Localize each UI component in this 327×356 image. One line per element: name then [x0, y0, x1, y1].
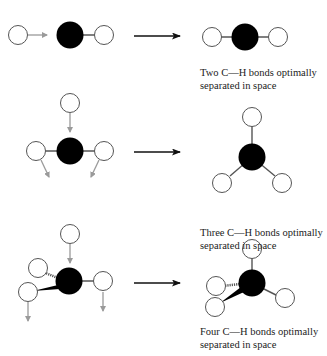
row-three-bonds-after: [213, 108, 292, 193]
carbon-atom: [239, 270, 266, 297]
caption-line: Two C—H bonds optimally: [200, 66, 317, 79]
caption-two-bonds: Two C—H bonds optimally separated in spa…: [200, 66, 317, 92]
row-two-bonds-after: [203, 24, 288, 51]
carbon-atom: [232, 24, 259, 51]
carbon-atom: [57, 22, 84, 49]
hydrogen-atom: [207, 277, 226, 296]
row-four-bonds-before: [19, 225, 113, 322]
hydrogen-atom: [243, 108, 262, 127]
hydrogen-atom: [269, 28, 288, 47]
caption-line: separated in space: [200, 79, 317, 92]
hydrogen-atom: [95, 142, 114, 161]
movement-arrow: [41, 160, 49, 177]
hydrogen-atom: [213, 174, 232, 193]
hydrogen-atom: [29, 259, 48, 278]
caption-line: Four C—H bonds optimally: [200, 325, 318, 338]
caption-three-bonds: Three C—H bonds optimally separated in s…: [200, 226, 323, 252]
carbon-atom: [57, 138, 84, 165]
hydrogen-atom: [95, 26, 114, 45]
row-three-bonds-before: [27, 94, 114, 178]
carbon-atom: [239, 144, 266, 171]
carbon-atom: [56, 268, 83, 295]
hydrogen-atom: [273, 174, 292, 193]
caption-line: separated in space: [200, 338, 318, 351]
hydrogen-atom: [203, 28, 222, 47]
caption-line: separated in space: [200, 239, 323, 252]
hydrogen-atom: [9, 26, 28, 45]
molecular-geometry-diagram: [0, 0, 327, 356]
hydrogen-atom: [276, 289, 295, 308]
hydrogen-atom: [19, 283, 38, 302]
hydrogen-atom: [61, 225, 80, 244]
caption-four-bonds: Four C—H bonds optimally separated in sp…: [200, 325, 318, 351]
movement-arrow: [91, 160, 99, 177]
hydrogen-atom: [61, 94, 80, 113]
hydrogen-atom: [206, 298, 225, 317]
caption-line: Three C—H bonds optimally: [200, 226, 323, 239]
hydrogen-atom: [94, 272, 113, 291]
row-two-bonds-before: [9, 22, 114, 49]
hydrogen-atom: [27, 142, 46, 161]
